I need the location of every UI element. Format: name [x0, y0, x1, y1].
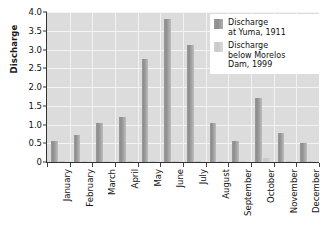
bar	[96, 123, 103, 162]
legend-swatch-yuma-1911	[214, 19, 223, 29]
x-tick-mark	[296, 163, 297, 167]
bar-group	[160, 12, 183, 162]
x-tick-mark	[92, 163, 93, 167]
x-tick-mark	[70, 163, 71, 167]
bar	[232, 141, 239, 162]
y-tick-label: 2.0	[15, 82, 42, 92]
legend-label-line-2: at Yuma, 1911	[228, 28, 286, 37]
x-tick-mark	[47, 163, 48, 167]
x-tick-mark	[228, 163, 229, 167]
y-tick-label: 1.5	[15, 101, 42, 111]
y-axis-ticks: 4.03.53.02.52.01.51.00.50	[20, 12, 47, 162]
x-tick-label: April	[130, 169, 140, 188]
x-tick-label: December	[311, 169, 321, 213]
y-tick-label: 4.0	[15, 7, 42, 17]
legend-label-line-3: Dam, 1999	[228, 60, 272, 69]
x-tick-label: November	[289, 169, 299, 213]
bar-group	[138, 12, 161, 162]
discharge-bar-chart: Discharge 4.03.53.02.52.01.51.00.50 Janu…	[0, 0, 325, 233]
bar	[300, 143, 307, 163]
bar-group	[183, 12, 206, 162]
bar	[187, 45, 194, 162]
bar-group	[70, 12, 93, 162]
x-tick-mark	[319, 163, 320, 167]
bar	[164, 19, 171, 162]
bar	[51, 141, 58, 162]
x-tick-mark	[115, 163, 116, 167]
x-tick-label: July	[198, 169, 208, 184]
bar	[278, 133, 285, 162]
x-tick-label: June	[175, 169, 185, 188]
chart-legend: Discharge at Yuma, 1911 Discharge below …	[210, 14, 322, 74]
x-tick-mark	[138, 163, 139, 167]
legend-label-line-2: below Morelos	[228, 51, 285, 60]
legend-label-yuma-1911: Discharge at Yuma, 1911	[228, 18, 286, 37]
x-tick-mark	[183, 163, 184, 167]
bar	[119, 117, 126, 162]
bar	[210, 123, 217, 162]
bar-group	[47, 12, 70, 162]
bar	[74, 135, 81, 162]
y-tick-label: 0	[15, 157, 42, 167]
x-tick-label: August	[221, 169, 231, 199]
y-tick-label: 2.5	[15, 63, 42, 73]
bar	[255, 98, 262, 163]
y-tick-label: 3.5	[15, 26, 42, 36]
legend-swatch-morelos-1999	[214, 42, 223, 52]
x-tick-label: October	[266, 169, 276, 203]
x-tick-mark	[206, 163, 207, 167]
bar-group	[92, 12, 115, 162]
bar-group	[115, 12, 138, 162]
x-tick-label: January	[62, 169, 72, 201]
x-tick-label: May	[153, 169, 163, 187]
bar	[142, 59, 149, 162]
x-tick-label: March	[107, 169, 117, 195]
y-tick-label: 3.0	[15, 45, 42, 55]
y-tick-label: 0.5	[15, 138, 42, 148]
legend-item-yuma-1911: Discharge at Yuma, 1911	[214, 18, 319, 37]
x-tick-label: February	[85, 169, 95, 207]
x-tick-label: September	[243, 169, 253, 216]
legend-label-morelos-1999: Discharge below Morelos Dam, 1999	[228, 41, 285, 70]
x-tick-mark	[251, 163, 252, 167]
x-tick-mark	[274, 163, 275, 167]
legend-item-morelos-1999: Discharge below Morelos Dam, 1999	[214, 41, 319, 70]
y-tick-label: 1.0	[15, 120, 42, 130]
legend-label-line-1: Discharge	[228, 18, 268, 27]
x-tick-mark	[160, 163, 161, 167]
legend-label-line-1: Discharge	[228, 41, 268, 50]
